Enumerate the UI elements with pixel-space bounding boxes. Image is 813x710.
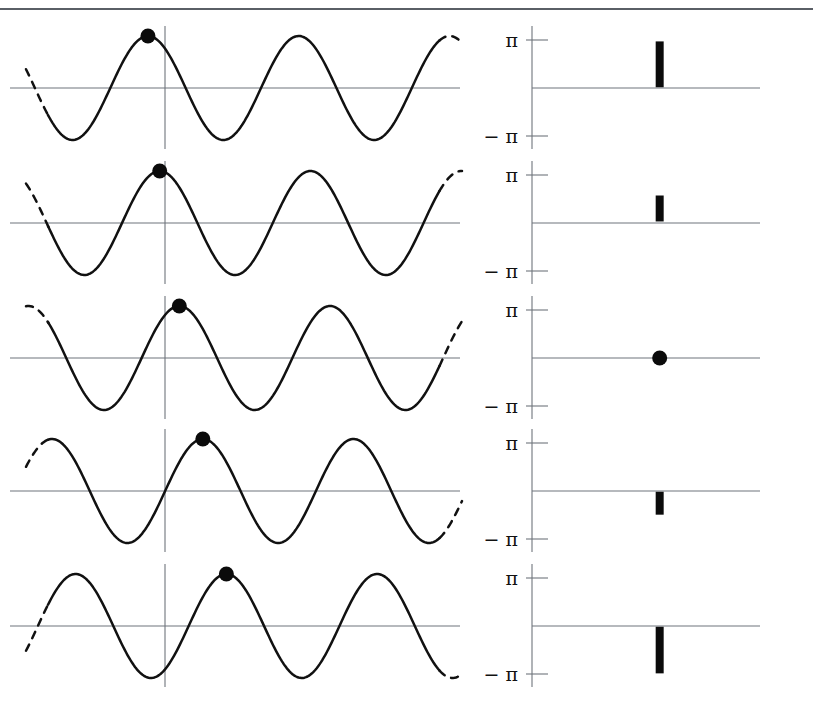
axis-label-pi: π — [506, 29, 519, 51]
axis-label-minus-pi: − π — [484, 663, 518, 685]
top-rule-divider — [0, 8, 813, 10]
curve-dash-left — [26, 184, 49, 227]
peak-marker-dot — [140, 29, 155, 44]
axis-label-minus-pi: − π — [484, 125, 518, 147]
phase-panel: π− π — [470, 155, 813, 290]
phase-panel: π− π — [470, 558, 813, 693]
figure-row: π− π — [0, 558, 813, 693]
axis-label-pi: π — [506, 299, 519, 321]
phase-estimation-figure: π− ππ− ππ− ππ− ππ− π — [0, 0, 813, 710]
waveform-panel — [0, 423, 470, 558]
figure-row: π− π — [0, 423, 813, 558]
peak-marker-dot — [172, 299, 187, 314]
peak-marker-dot — [195, 432, 210, 447]
curve-dash-right — [440, 36, 463, 43]
axis-label-minus-pi: − π — [484, 528, 518, 550]
waveform-panel — [0, 20, 470, 155]
waveform-panel — [0, 558, 470, 693]
figure-row: π− π — [0, 155, 813, 290]
peak-marker-dot — [219, 567, 234, 582]
curve-dash-right — [440, 171, 463, 191]
figure-row: π− π — [0, 290, 813, 425]
curve-dash-left — [26, 440, 49, 467]
axis-label-minus-pi: − π — [484, 395, 518, 417]
phase-panel: π− π — [470, 423, 813, 558]
curve-dash-left — [26, 69, 49, 116]
phase-point-dot — [652, 351, 667, 366]
curve-dash-right — [440, 671, 463, 678]
figure-row: π− π — [0, 20, 813, 155]
curve-dash-left — [26, 604, 49, 651]
curve-dash-right — [440, 501, 463, 538]
axis-label-pi: π — [506, 164, 519, 186]
peak-marker-dot — [152, 164, 167, 179]
curve-dash-left — [26, 306, 49, 323]
phase-panel: π− π — [470, 290, 813, 425]
axis-label-pi: π — [506, 567, 519, 589]
waveform-panel — [0, 155, 470, 290]
waveform-panel — [0, 290, 470, 425]
phase-panel: π− π — [470, 20, 813, 155]
axis-label-pi: π — [506, 432, 519, 454]
curve-dash-right — [440, 321, 463, 366]
axis-label-minus-pi: − π — [484, 260, 518, 282]
